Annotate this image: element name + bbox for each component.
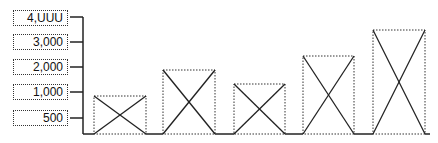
placeholder-x-marks [94, 30, 425, 134]
chart-canvas [0, 0, 438, 143]
y-axis [70, 17, 83, 134]
